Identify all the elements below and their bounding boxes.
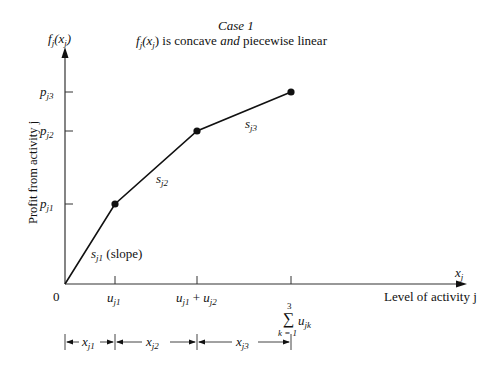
origin-label: 0: [53, 290, 60, 303]
x-tick-label-sum: 3 ∑ k = 1 ujk: [270, 302, 320, 342]
uj1-base: u: [107, 290, 114, 305]
pj1-base: p: [40, 196, 47, 211]
diagram-canvas: [0, 0, 495, 366]
dimension-label-xj3: xj3: [236, 335, 249, 348]
title-description: fj(xj) is concave and piecewise linear: [136, 34, 327, 47]
y-axis-title: Profit from activity j: [26, 121, 41, 224]
xj1-sub: j1: [88, 341, 95, 351]
y-sym-x: (x: [54, 31, 64, 46]
sum-symbol: ∑: [283, 311, 294, 327]
pj2-base: p: [40, 123, 47, 138]
x-axis-title: Level of activity j: [384, 290, 477, 303]
x-tick-label-uj1: uj1: [107, 291, 121, 304]
y-tick-label-pj1: pj1: [40, 197, 54, 210]
y-tick-label-pj2: pj2: [40, 124, 54, 137]
slope-label-sj3: sj3: [245, 117, 257, 130]
uj2-sub: j2: [210, 297, 217, 307]
sum-lower: k = 1: [278, 329, 297, 338]
ujk-base: u: [298, 313, 305, 328]
title-and: and: [220, 33, 240, 48]
plus-sign: +: [190, 290, 204, 305]
y-axis-symbol: fj(xj): [48, 32, 71, 45]
uj1-sub: j1: [114, 297, 121, 307]
ujk-sub: jk: [305, 320, 312, 330]
sj2-sub: j2: [161, 178, 168, 188]
title-text2: piecewise linear: [240, 33, 327, 48]
x-tick-label-uj1-uj2: uj1 + uj2: [176, 291, 217, 304]
pj3-base: p: [40, 84, 47, 99]
uj1b-sub: j1: [183, 297, 190, 307]
title-case: Case 1: [218, 19, 254, 32]
slope-label-sj2: sj2: [156, 172, 168, 185]
breakpoint-2: [193, 127, 200, 134]
pj1-sub: j1: [47, 203, 54, 213]
dimension-line: [65, 334, 291, 350]
sj1-note: (slope): [103, 246, 142, 261]
uj2-base: u: [203, 290, 210, 305]
breakpoint-1: [111, 200, 118, 207]
title-text1: is concave: [159, 33, 220, 48]
sj1-sub: j1: [96, 253, 103, 263]
dimension-label-xj1: xj1: [82, 335, 95, 348]
title-x-sub: j: [152, 40, 155, 50]
xj2-base: x: [146, 334, 152, 349]
y-tick-label-pj3: pj3: [40, 85, 54, 98]
xj3-base: x: [236, 334, 242, 349]
xj2-sub: j2: [152, 341, 159, 351]
breakpoint-3: [287, 88, 294, 95]
dimension-label-xj2: xj2: [146, 335, 159, 348]
y-sym-close: ): [67, 31, 71, 46]
slope-label-sj1: sj1 (slope): [91, 247, 142, 260]
x-axis-title-text: Level of activity j: [384, 289, 477, 304]
xj1-base: x: [82, 334, 88, 349]
y-sym-x-sub: j: [64, 38, 67, 48]
title-x: (x: [142, 33, 152, 48]
x-axis-symbol: xj: [455, 266, 463, 279]
y-axis-arrow-icon: [62, 47, 69, 58]
xj-base: x: [455, 265, 461, 280]
uj1b-base: u: [176, 290, 183, 305]
sj3-sub: j3: [250, 123, 257, 133]
pj2-sub: j2: [47, 130, 54, 140]
title-f-sub: j: [140, 40, 143, 50]
xj-sub: j: [461, 272, 464, 282]
xj3-sub: j3: [242, 341, 249, 351]
pj3-sub: j3: [47, 91, 54, 101]
y-sym-f-sub: j: [52, 38, 55, 48]
sum-term: ujk: [298, 314, 311, 327]
